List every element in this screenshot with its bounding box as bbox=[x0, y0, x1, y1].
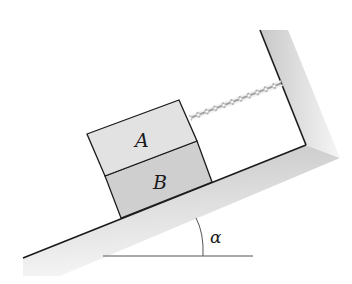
block-a-label: A bbox=[133, 129, 149, 151]
angle-arc bbox=[196, 218, 203, 256]
incline-diagram: A B α bbox=[0, 0, 352, 284]
wall-shade bbox=[260, 30, 340, 158]
rope bbox=[189, 80, 284, 121]
block-b-label: B bbox=[152, 171, 167, 193]
angle-alpha-label: α bbox=[210, 227, 222, 247]
